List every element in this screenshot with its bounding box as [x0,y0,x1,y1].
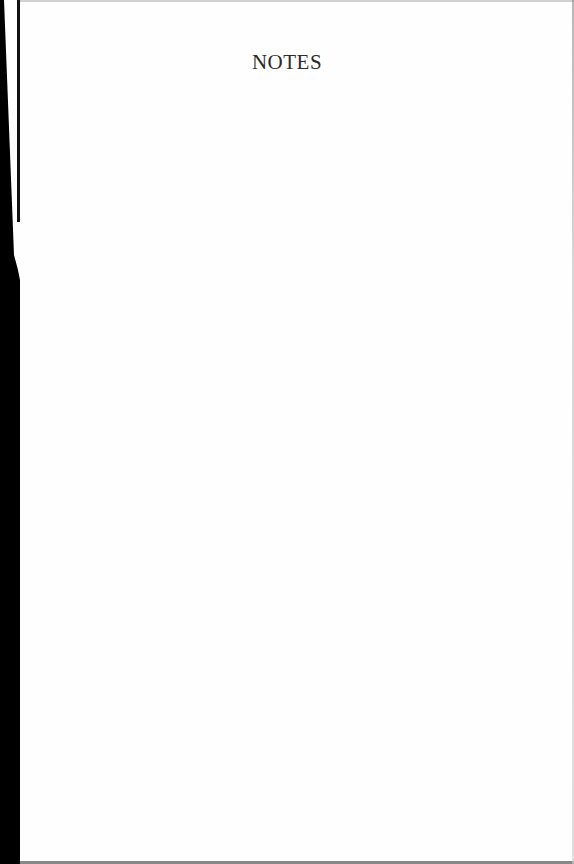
page-title: NOTES [0,50,574,75]
scanned-page: NOTES [0,0,574,864]
scan-border-top [20,0,574,2]
scan-border-line [17,0,20,222]
